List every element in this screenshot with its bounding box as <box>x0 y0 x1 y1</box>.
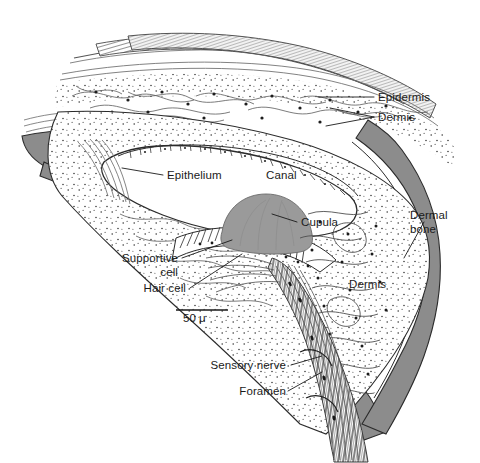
label-dermal-bone-line2: bone <box>410 223 436 236</box>
label-sensory-nerve: Sensory nerve <box>192 359 286 372</box>
label-dermis-mid: Dermis <box>349 278 386 291</box>
label-epithelium: Epithelium <box>167 169 222 182</box>
label-supportive-cell-line1: Supportive <box>100 252 178 265</box>
label-foramen: Foramen <box>200 385 286 398</box>
anatomical-figure: Epidermis Dermis Epithelium Canal Cupula… <box>0 0 480 463</box>
label-supportive-cell-line2: cell <box>100 266 178 279</box>
label-epidermis: Epidermis <box>378 91 430 104</box>
scale-bar-label: 50 μ <box>183 312 206 324</box>
label-dermal-bone-line1: Dermal <box>410 209 448 222</box>
label-canal: Canal <box>266 169 297 182</box>
label-cupula: Cupula <box>301 216 338 229</box>
label-dermis-top: Dermis <box>378 111 415 124</box>
label-hair-cell: Hair cell <box>108 282 186 295</box>
